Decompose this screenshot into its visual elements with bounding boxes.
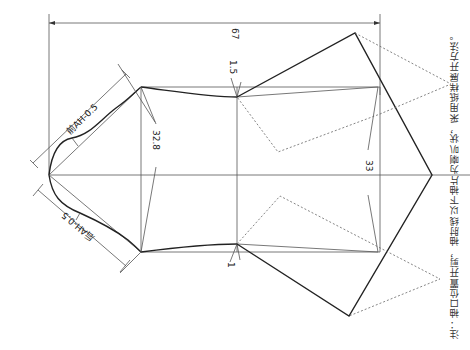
flared-sleeve-outline — [237, 33, 432, 316]
sleeve-pattern-diagram: 67 前AH-0.5 后AH-0.5 — [0, 0, 470, 350]
offset-markers — [230, 78, 241, 262]
note-text: 注：袖口位置开剪，袖肘线以下袖片为喇叭状，采用纸样展开方法。 — [448, 30, 462, 339]
right-length-label: 33 — [364, 160, 374, 171]
bottom-offset-label: 1 — [226, 262, 236, 268]
dashed-original-pieces — [237, 33, 451, 316]
overall-width-label: 67 — [230, 28, 240, 39]
overall-width-dimension — [49, 14, 380, 175]
note-text-container: 注：袖口位置开剪，袖肘线以下袖片为喇叭状，采用纸样展开方法。 — [448, 30, 464, 330]
top-offset-label: 1.5 — [228, 60, 238, 74]
left-length-label: 32.8 — [151, 130, 161, 150]
back-ah-label: 后AH-0.5 — [60, 210, 97, 243]
